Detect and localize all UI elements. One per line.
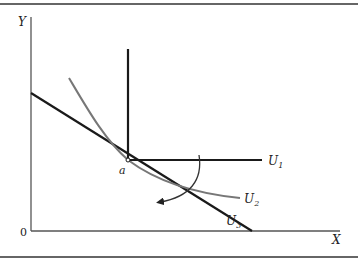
curve-u2-label: U2 xyxy=(244,192,259,208)
point-a xyxy=(126,158,130,162)
point-a-label: a xyxy=(119,164,126,177)
curve-u1-label: U1 xyxy=(268,154,283,170)
curve-u3-line xyxy=(31,93,252,231)
diagram-frame: Y X 0 a U1 U2 U3 xyxy=(0,0,358,262)
x-axis-label: X xyxy=(331,233,341,247)
curve-u2 xyxy=(69,78,240,198)
curve-u3-label: U3 xyxy=(226,214,241,230)
indifference-curve-diagram: Y X 0 a U1 U2 U3 xyxy=(0,0,358,262)
y-axis-label: Y xyxy=(18,15,27,29)
origin-label: 0 xyxy=(20,226,27,239)
